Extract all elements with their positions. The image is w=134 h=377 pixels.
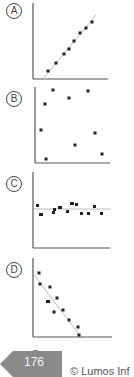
scatter-plot-a [33, 3, 108, 79]
scatter-plots [0, 0, 134, 377]
scatter-plot-d [33, 258, 112, 338]
data-points [40, 89, 104, 161]
scatter-plot-b [35, 87, 110, 163]
copyright-text: © Lumos Inf [70, 365, 129, 377]
page-number: 176 [14, 355, 54, 369]
scatter-plot-c [33, 172, 111, 248]
trend-line [43, 15, 96, 79]
data-points [38, 272, 81, 337]
